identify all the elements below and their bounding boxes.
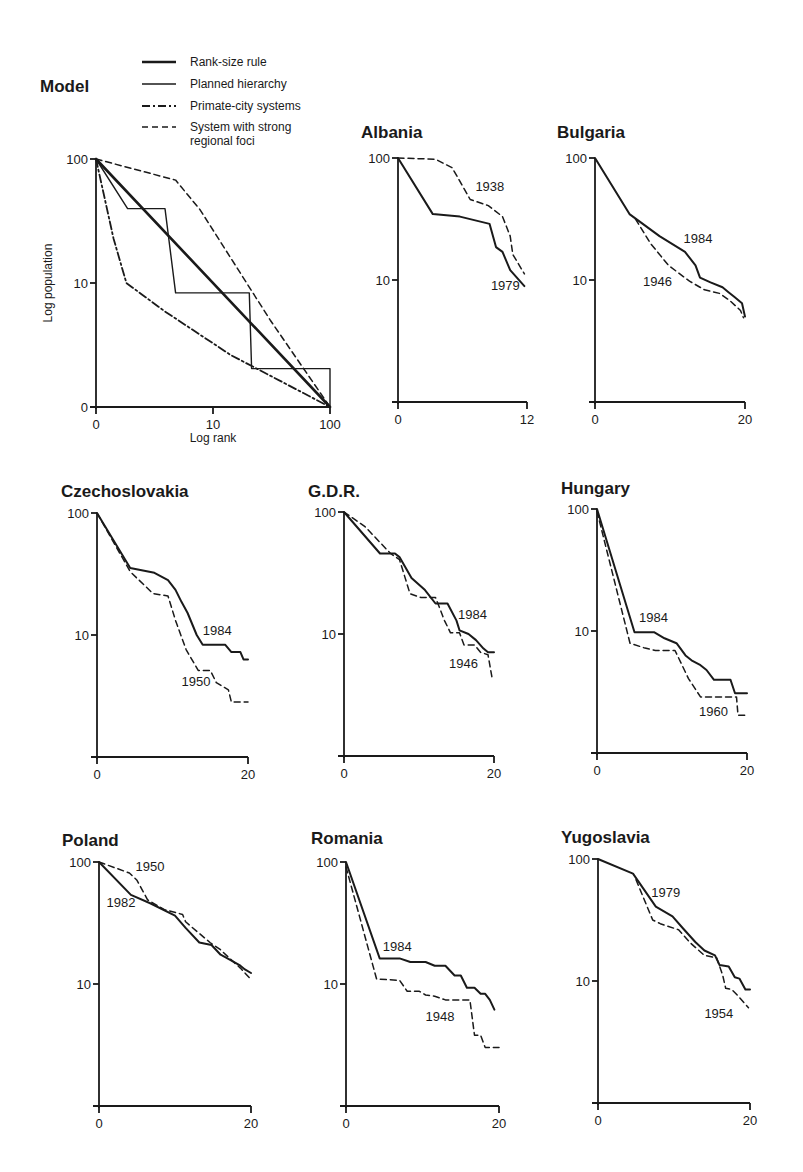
series-label-1938: 1938: [475, 179, 504, 194]
series-label-1979: 1979: [651, 885, 680, 900]
x-tick-label: 0: [92, 417, 99, 432]
x-tick-label: 12: [520, 412, 534, 427]
x-tick-label: 0: [95, 1116, 102, 1131]
panel-title: Model: [40, 77, 89, 96]
series-label-1948: 1948: [426, 1009, 455, 1024]
x-tick-label: 20: [492, 1116, 506, 1131]
x-tick-label: 0: [394, 412, 401, 427]
series-1984: [344, 512, 494, 652]
y-tick-label: 100: [66, 152, 88, 167]
series-label-1950: 1950: [182, 674, 211, 689]
y-tick-label: 100: [368, 151, 390, 166]
y-tick-label: 10: [324, 977, 338, 992]
x-tick-label: 0: [342, 1116, 349, 1131]
x-tick-label: 20: [244, 1116, 258, 1131]
x-tick-label: 20: [738, 412, 752, 427]
legend-label-primate: Primate-city systems: [190, 99, 301, 113]
series-label-1984: 1984: [684, 231, 713, 246]
series-label-1946: 1946: [643, 274, 672, 289]
series-label-1946: 1946: [449, 656, 478, 671]
y-axis-label: Log population: [41, 244, 55, 323]
y-tick-label: 100: [316, 855, 338, 870]
series-label-1982: 1982: [107, 895, 136, 910]
panels: Model100100010100Albania1001001219791938…: [40, 77, 757, 1131]
series-1950: [97, 513, 248, 702]
series-label-1950: 1950: [135, 859, 164, 874]
y-tick-label: 10: [573, 273, 587, 288]
series-label-1984: 1984: [458, 607, 487, 622]
y-tick-label: 100: [567, 502, 589, 517]
panel-yugoslavia: Yugoslavia1001002019791954: [561, 828, 757, 1128]
y-tick-label: 10: [77, 977, 91, 992]
y-tick-label: 10: [75, 628, 89, 643]
series-1960: [597, 511, 747, 715]
panel-hungary: Hungary1001002019841960: [561, 479, 754, 778]
series-1984: [595, 158, 745, 317]
panel-poland: Poland1001002019821950: [62, 831, 258, 1131]
series-1984: [346, 862, 494, 1010]
y-tick-label: 100: [67, 506, 89, 521]
x-tick-label: 20: [743, 1113, 757, 1128]
panel-title: Czechoslovakia: [61, 482, 189, 501]
panel-title: Poland: [62, 831, 119, 850]
series-rank-size-rule: [96, 159, 330, 407]
panel-g-d-r: G.D.R.1001002019841946: [308, 482, 501, 781]
x-tick-label: 20: [487, 766, 501, 781]
y-tick-label: 100: [565, 151, 587, 166]
y-tick-label: 10: [322, 627, 336, 642]
x-axis-label: Log rank: [190, 431, 238, 445]
y-tick-label: 100: [69, 855, 91, 870]
x-tick-label: 0: [93, 767, 100, 782]
legend-label-regional: System with strong: [190, 120, 291, 134]
x-tick-label: 0: [340, 766, 347, 781]
model-legend: Rank-size rule Planned hierarchy Primate…: [142, 55, 301, 148]
x-tick-label: 20: [740, 763, 754, 778]
x-tick-label: 0: [594, 1113, 601, 1128]
x-tick-label: 10: [206, 417, 220, 432]
series-label-1960: 1960: [699, 704, 728, 719]
y-tick-label: 10: [575, 624, 589, 639]
series-1950: [99, 862, 250, 978]
panel-title: Bulgaria: [557, 123, 626, 142]
panel-bulgaria: Bulgaria1001002019841946: [557, 123, 752, 427]
panel-romania: Romania1001002019841948: [311, 829, 506, 1131]
series-label-1984: 1984: [383, 939, 412, 954]
rank-size-figure: Rank-size rule Planned hierarchy Primate…: [0, 0, 803, 1172]
legend-label-planned: Planned hierarchy: [190, 77, 287, 91]
x-tick-label: 20: [241, 767, 255, 782]
series-label-1984: 1984: [203, 623, 232, 638]
panel-title: G.D.R.: [308, 482, 360, 501]
y-tick-label: 10: [576, 974, 590, 989]
y-tick-label: 10: [376, 273, 390, 288]
panel-title: Hungary: [561, 479, 631, 498]
series-1979: [598, 859, 750, 990]
x-tick-label: 100: [319, 417, 341, 432]
panel-title: Albania: [361, 123, 423, 142]
y-tick-label: 10: [74, 276, 88, 291]
y-tick-label: 100: [568, 852, 590, 867]
legend-label-rank-size: Rank-size rule: [190, 55, 267, 69]
x-tick-label: 0: [591, 412, 598, 427]
panel-title: Romania: [311, 829, 383, 848]
legend-label-regional-2: regional foci: [190, 134, 255, 148]
series-label-1954: 1954: [704, 1006, 733, 1021]
panel-czechoslovakia: Czechoslovakia1001002019841950: [61, 482, 255, 782]
series-label-1984: 1984: [639, 610, 668, 625]
y-tick-label: 0: [81, 400, 88, 415]
series-label-1979: 1979: [491, 278, 520, 293]
series-1948: [346, 867, 499, 1048]
y-tick-label: 100: [314, 505, 336, 520]
x-tick-label: 0: [593, 763, 600, 778]
panel-albania: Albania1001001219791938: [361, 123, 534, 427]
panel-title: Yugoslavia: [561, 828, 650, 847]
